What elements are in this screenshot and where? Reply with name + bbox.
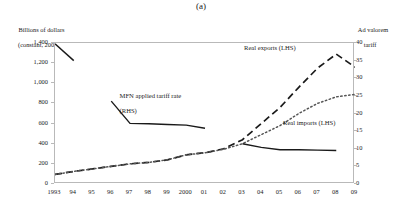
left-axis-tick-label: 1,000 xyxy=(18,78,48,85)
series-line xyxy=(55,94,355,174)
left-axis-tick-label: 400 xyxy=(18,139,48,146)
left-axis-tick-label: 800 xyxy=(18,98,48,105)
series-label-mfn-tariff: MFN applied tariff rate (RHS) xyxy=(113,84,181,122)
left-axis-title-line1: Billions of dollars xyxy=(18,26,64,33)
left-axis-tick-label: 1,400 xyxy=(18,38,48,45)
plot-area xyxy=(54,42,354,183)
series-line xyxy=(55,54,355,174)
left-axis-tick-label: 200 xyxy=(18,159,48,166)
right-axis-tick-label: 35 xyxy=(356,56,380,63)
right-axis-tick-label: 40 xyxy=(356,38,380,45)
x-axis-tick-label: 09 xyxy=(341,188,367,195)
series-label-imports: Real imports (LHS) xyxy=(283,119,335,127)
right-axis-tick-label: 5 xyxy=(356,161,380,168)
right-axis-tick-label: 15 xyxy=(356,126,380,133)
left-axis-tick-label: 600 xyxy=(18,119,48,126)
panel-title: (a) xyxy=(0,1,402,11)
right-axis-tick-label: 30 xyxy=(356,73,380,80)
right-axis-tick-label: 10 xyxy=(356,144,380,151)
right-axis-title-line1: Ad valorem xyxy=(358,26,388,33)
series-label-exports: Real exports (LHS) xyxy=(244,44,296,52)
series-line xyxy=(243,144,337,151)
left-axis-tick-label: 0 xyxy=(18,179,48,186)
series-label-mfn-line1: MFN applied tariff rate xyxy=(120,92,182,99)
series-label-mfn-line2: (RHS) xyxy=(120,107,137,114)
left-axis-tick-label: 1,200 xyxy=(18,58,48,65)
series-canvas xyxy=(55,43,355,184)
right-axis-tick-label: 0 xyxy=(356,179,380,186)
series-line xyxy=(55,44,74,61)
left-axis-tick-mark xyxy=(51,183,54,184)
figure-panel-a: (a) Billions of dollars (constant, 2000)… xyxy=(0,0,402,217)
right-axis-tick-label: 20 xyxy=(356,109,380,116)
right-axis-tick-label: 25 xyxy=(356,91,380,98)
